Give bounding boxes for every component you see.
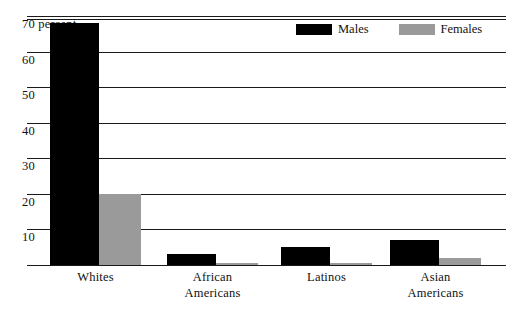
bar-chart: 70 percent605040302010 WhitesAfricanAmer…: [0, 0, 514, 314]
legend-label-females: Females: [441, 22, 483, 36]
category-label-line1: Asian: [420, 270, 450, 284]
category-label-asian-americans: AsianAmericans: [376, 270, 496, 301]
legend-entry-males: Males: [296, 22, 369, 36]
category-label-whites: Whites: [36, 270, 156, 286]
bar-group: [281, 0, 372, 266]
bar-group: [50, 0, 141, 266]
category-label-line2: Americans: [376, 286, 496, 302]
bar-females-asian-americans: [439, 258, 481, 265]
legend-swatch-males: [296, 24, 332, 35]
bar-males-asian-americans: [390, 240, 439, 265]
bar-group: [390, 0, 481, 266]
bar-males-latinos: [281, 247, 330, 265]
category-label-line1: Latinos: [307, 270, 346, 284]
chart-legend: MalesFemales: [296, 22, 504, 36]
category-label-latinos: Latinos: [267, 270, 387, 286]
category-label-line2: Americans: [153, 286, 273, 302]
bars-layer: [27, 0, 506, 266]
bar-males-african-americans: [167, 254, 216, 265]
bar-males-whites: [50, 23, 99, 265]
bar-females-african-americans: [216, 263, 258, 265]
legend-swatch-females: [399, 24, 435, 35]
bar-group: [167, 0, 258, 266]
category-label-african-americans: AfricanAmericans: [153, 270, 273, 301]
legend-label-males: Males: [338, 22, 369, 36]
category-label-line1: African: [193, 270, 233, 284]
category-label-line1: Whites: [77, 270, 114, 284]
x-axis-category-labels: WhitesAfricanAmericansLatinosAsianAmeric…: [27, 270, 506, 314]
bar-females-whites: [99, 194, 141, 265]
bar-females-latinos: [330, 263, 372, 265]
legend-entry-females: Females: [399, 22, 483, 36]
